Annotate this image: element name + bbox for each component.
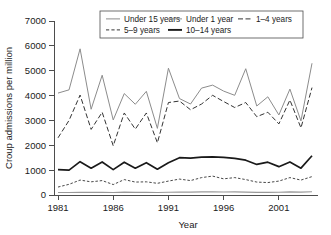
x-tick-label: 1981 (47, 202, 68, 213)
y-tick-label: 3000 (25, 115, 46, 126)
y-tick-label: 4000 (25, 90, 46, 101)
y-tick-label: 5000 (25, 65, 46, 76)
y-tick-label: 1000 (25, 165, 46, 176)
x-axis-tick-labels: 19811986199119962001 (47, 202, 289, 213)
series-line-10-14-years (58, 156, 312, 170)
y-axis-tick-labels: 01000200030004000500060007000 (25, 15, 46, 200)
y-tick-label: 7000 (25, 15, 46, 26)
legend-label: 10–14 years (186, 26, 231, 35)
series-line-5-9-years (58, 176, 312, 187)
y-tick-label: 2000 (25, 140, 46, 151)
data-series-group (58, 49, 312, 193)
legend-label: Under 1 year (186, 15, 234, 24)
legend-label: 1–4 years (256, 15, 292, 24)
series-line-1-4-years (58, 88, 312, 146)
y-tick-label: 0 (41, 189, 46, 200)
chart-canvas: 01000200030004000500060007000 1981198619… (0, 0, 331, 235)
series-line-baseline (58, 192, 312, 193)
y-tick-label: 6000 (25, 40, 46, 51)
x-tick-label: 2001 (268, 202, 289, 213)
x-tick-label: 1991 (158, 202, 179, 213)
x-tick-label: 1996 (213, 202, 234, 213)
series-line-under-15-years (58, 49, 312, 129)
legend-label: 5–9 years (124, 26, 160, 35)
axis-tick-marks (49, 21, 279, 200)
x-tick-label: 1986 (103, 202, 124, 213)
y-axis-title: Croup admissions per million (3, 47, 14, 169)
croup-admissions-chart: 01000200030004000500060007000 1981198619… (0, 0, 331, 235)
chart-legend: Under 15 yearsUnder 1 year1–4 years5–9 y… (100, 11, 303, 38)
x-axis-title: Year (178, 219, 197, 230)
